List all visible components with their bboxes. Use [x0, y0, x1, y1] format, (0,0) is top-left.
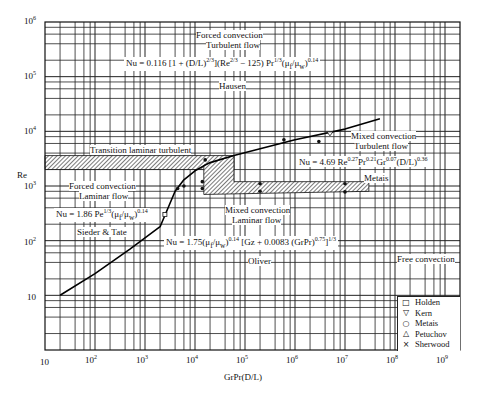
label-forced-turbulent-1: Forced convection	[196, 30, 263, 40]
equation-hausen: Nu = 0.116 [1 + (D/L)2/3](Re2/3 − 125) P…	[124, 57, 320, 71]
x-tick-1e8: 108	[386, 354, 398, 365]
x-tick-1e9: 109	[436, 354, 448, 365]
legend-item-sherwood: ×Sherwood	[398, 339, 460, 350]
x-mark-icon: ×	[401, 340, 411, 349]
label-free-convection: Free convection	[397, 254, 455, 264]
legend: □Holden ▽Kern ○Metais △Petuchov ×Sherwoo…	[397, 296, 460, 351]
label-mixed-turbulent-1: Mixed convection	[351, 131, 416, 141]
x-tick-1e7: 107	[336, 354, 348, 365]
x-tick-1e2: 102	[85, 354, 97, 365]
author-metais: Metais	[364, 173, 389, 183]
y-tick-10: 10	[27, 291, 36, 302]
author-sieder-tate: Sieder & Tate	[77, 227, 127, 237]
y-tick-1e6: 106	[24, 15, 36, 26]
author-oliver: Oliver	[248, 256, 271, 266]
x-tick-1e6: 106	[286, 354, 298, 365]
label-transition: Transition laminar turbulent	[90, 145, 191, 155]
triangle-down-icon: ▽	[401, 308, 411, 317]
label-forced-laminar-2: Laminar flow	[79, 191, 128, 201]
y-tick-1e5: 105	[24, 70, 36, 81]
author-hausen: Hausen	[219, 81, 246, 91]
triangle-up-icon: △	[401, 329, 411, 338]
x-tick-10: 10	[40, 356, 49, 367]
label-forced-turbulent-2: Turbulent flow	[206, 40, 260, 50]
label-forced-laminar-1: Forced convection	[69, 181, 136, 191]
equation-metais: Nu = 4.69 Re0.27Pr0.21Gr0.07(D/L)0.36	[297, 156, 430, 167]
label-mixed-turbulent-2: Turbulent flow	[354, 141, 408, 151]
label-mixed-laminar-2: Laminar flow	[232, 215, 281, 225]
square-icon: □	[401, 298, 411, 307]
equation-oliver: Nu = 1.75(μf/μw)0.14 [Gz + 0.0083 (GrPr)…	[164, 236, 338, 250]
y-tick-1e3: 103	[24, 180, 36, 191]
legend-item-petuchov: △Petuchov	[398, 329, 460, 340]
x-tick-1e5: 105	[236, 354, 248, 365]
circle-icon: ○	[401, 319, 411, 328]
legend-item-kern: ▽Kern	[398, 308, 460, 319]
legend-item-metais: ○Metais	[398, 318, 460, 329]
y-tick-1e2: 102	[24, 236, 36, 247]
label-mixed-laminar-1: Mixed convection	[225, 205, 290, 215]
legend-item-holden: □Holden	[398, 297, 460, 308]
y-tick-1e4: 104	[24, 125, 36, 136]
x-tick-1e3: 103	[136, 354, 148, 365]
equation-sieder-tate: Nu = 1.86 Pe1/3(μf/μw)0.14	[54, 208, 150, 222]
x-axis-title: GrPr(D/L)	[224, 372, 262, 382]
y-axis-title: Re	[17, 170, 27, 180]
x-tick-1e4: 104	[186, 354, 198, 365]
